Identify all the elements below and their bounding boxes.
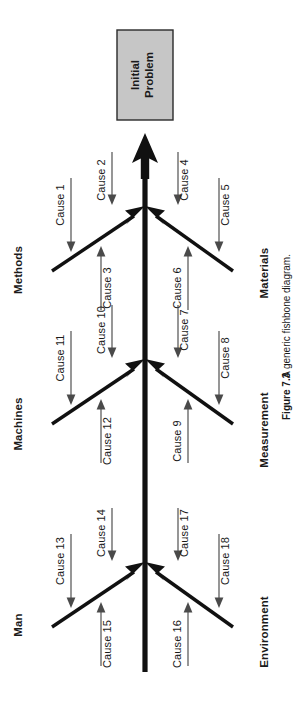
cause-13-arrowhead-icon [67, 598, 76, 609]
category-label-measurement: Measurement [258, 392, 270, 467]
category-label-materials: Materials [258, 248, 270, 299]
cause-16: Cause 16 [171, 602, 192, 668]
cause-8: Cause 8 [215, 331, 231, 405]
cause-13: Cause 13 [54, 534, 75, 608]
cause-14-arrowhead-icon [108, 551, 117, 562]
cause-5: Cause 5 [215, 178, 231, 252]
cause-2-label: Cause 2 [95, 159, 107, 201]
cause-18-arrowhead-icon [215, 598, 224, 609]
cause-9-arrowhead-icon [184, 399, 193, 410]
cause-5-arrowhead-icon [215, 242, 224, 253]
cause-14-label: Cause 14 [95, 509, 107, 557]
figure-caption: Figure 7.3 A generic fishbone diagram. [281, 254, 292, 420]
problem-label-line2: Problem [143, 52, 155, 98]
cause-8-label: Cause 8 [219, 337, 231, 379]
problem-label-line1: Initial [129, 60, 141, 90]
cause-9-label: Cause 9 [171, 420, 183, 462]
figure-caption-text: A generic fishbone diagram. [281, 254, 292, 378]
cause-18: Cause 18 [215, 534, 231, 608]
cause-11-label: Cause 11 [54, 334, 66, 381]
cause-4: Cause 4 [174, 152, 190, 205]
fishbone-diagram: Initial Problem Cause 1 [0, 0, 303, 726]
cause-15: Cause 15 [97, 602, 113, 668]
cause-10-arrowhead-icon [108, 348, 117, 359]
cause-3-arrowhead-icon [97, 246, 106, 257]
cause-12-label: Cause 12 [101, 417, 113, 465]
cause-10-label: Cause 10 [95, 306, 107, 354]
cause-6-label: Cause 6 [171, 267, 183, 309]
cause-17-label: Cause 17 [178, 509, 190, 557]
cause-3: Cause 3 [97, 246, 113, 310]
cause-17: Cause 17 [174, 508, 190, 561]
cause-9: Cause 9 [171, 399, 192, 463]
cause-12: Cause 12 [97, 399, 113, 465]
cause-1-arrowhead-icon [67, 242, 76, 253]
spine-arrowhead-icon [132, 133, 158, 179]
cause-16-label: Cause 16 [171, 620, 183, 668]
category-label-man: Man [12, 613, 24, 636]
cause-7: Cause 7 [174, 305, 190, 358]
cause-7-label: Cause 7 [178, 309, 190, 351]
cause-4-label: Cause 4 [178, 159, 190, 201]
cause-12-arrowhead-icon [97, 399, 106, 410]
cause-2: Cause 2 [95, 152, 116, 205]
cause-13-label: Cause 13 [54, 537, 66, 585]
cause-6-arrowhead-icon [184, 246, 193, 257]
category-label-environment: Environment [258, 596, 270, 667]
cause-14: Cause 14 [95, 508, 116, 561]
initial-problem-box: Initial Problem [117, 30, 173, 120]
cause-3-label: Cause 3 [101, 267, 113, 309]
cause-10: Cause 10 [95, 305, 116, 358]
figure-page: Initial Problem Cause 1 [0, 0, 303, 726]
cause-1: Cause 1 [54, 178, 75, 252]
cause-1-label: Cause 1 [54, 184, 66, 226]
category-label-methods: Methods [12, 246, 24, 294]
cause-5-label: Cause 5 [219, 184, 231, 226]
figure-number: Figure 7.3 [281, 372, 292, 420]
cause-6: Cause 6 [171, 246, 192, 310]
category-label-machines: Machines [12, 397, 24, 450]
cause-11: Cause 11 [54, 331, 75, 405]
cause-16-arrowhead-icon [184, 602, 193, 613]
cause-15-label: Cause 15 [101, 620, 113, 668]
cause-15-arrowhead-icon [97, 602, 106, 613]
cause-2-arrowhead-icon [108, 195, 117, 206]
cause-11-arrowhead-icon [67, 395, 76, 406]
cause-18-label: Cause 18 [219, 537, 231, 585]
cause-8-arrowhead-icon [215, 395, 224, 406]
